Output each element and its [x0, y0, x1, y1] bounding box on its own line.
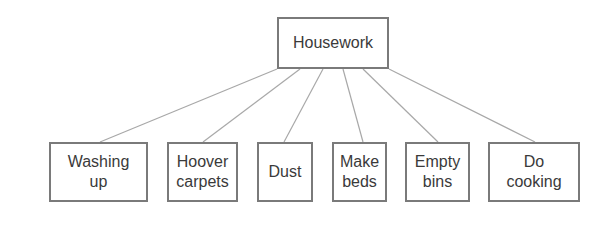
node-label: Housework: [293, 33, 373, 53]
node-label: Do cooking: [506, 152, 561, 192]
tree-link: [100, 69, 277, 142]
child-node-hoover-carpets: Hoover carpets: [167, 142, 238, 202]
child-node-make-beds: Make beds: [332, 142, 387, 202]
child-node-washing-up: Washing up: [49, 142, 148, 202]
tree-link: [363, 69, 438, 142]
child-node-do-cooking: Do cooking: [488, 142, 580, 202]
child-node-empty-bins: Empty bins: [405, 142, 470, 202]
node-label: Washing up: [68, 152, 130, 192]
child-node-dust: Dust: [257, 142, 313, 202]
tree-link: [284, 69, 323, 142]
node-label: Hoover carpets: [176, 152, 228, 192]
node-label: Dust: [269, 162, 302, 182]
node-label: Empty bins: [415, 152, 460, 192]
node-label: Make beds: [340, 152, 379, 192]
tree-link: [343, 69, 363, 142]
root-node-housework: Housework: [277, 17, 389, 69]
tree-link: [389, 69, 535, 142]
